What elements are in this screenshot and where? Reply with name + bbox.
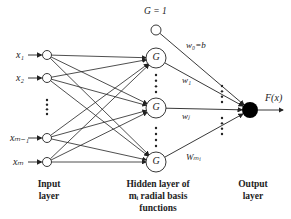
ellipsis-dot-0-0 [46,99,48,101]
hidden-node-label-m: G [146,155,166,166]
hidden-node-label-j: G [146,101,166,112]
edge-hidden-2-output [166,108,242,110]
edge-input-0-hidden-0 [51,55,146,58]
ellipsis-dot-2-0 [155,127,157,129]
bias-node [151,25,161,35]
ellipsis-dot-4-0 [221,117,223,119]
ellipsis-dot-3-2 [221,95,223,97]
edge-input-1-hidden-0 [51,60,146,77]
edge-input-0-hidden-2 [50,58,149,155]
caption-output-layer: Output layer [232,178,274,202]
ellipsis-dot-1-1 [155,79,157,81]
edge-hidden-1-output [165,63,243,106]
ellipsis-dot-3-3 [221,101,223,103]
input-node-0 [43,51,52,60]
input-node-2 [43,134,52,143]
input-node-1 [43,74,52,83]
edge-hidden-3-output [165,114,243,157]
ellipsis-dot-1-0 [155,74,157,76]
hidden-node-label-1: G [146,51,166,62]
caption-input-layer: Input layer [28,178,70,202]
ellipsis-dot-3-1 [221,90,223,92]
bias-label: G = 1 [144,6,167,16]
ellipsis-dot-1-2 [155,85,157,87]
ellipsis-dot-4-2 [221,127,223,129]
ellipsis-dot-4-1 [221,122,223,124]
ellipsis-dot-2-3 [155,145,157,147]
output-node [242,102,258,118]
input-node-3 [43,158,52,167]
input-label-x1: x₁ [16,49,24,60]
weight-label-wj: wⱼ [182,111,190,121]
input-label-x2: x₂ [16,72,24,83]
edge-input-2-hidden-1 [51,111,146,137]
ellipsis-dot-2-1 [155,133,157,135]
ellipsis-dot-0-2 [46,108,48,110]
ellipsis-dot-3-0 [221,85,223,87]
ellipsis-dot-4-3 [221,133,223,135]
weight-label-w1: w₁ [182,75,191,85]
ellipsis-dot-0-1 [46,103,48,105]
ellipsis-dot-1-3 [155,91,157,93]
weight-label-wm: Wₘᵢ [186,152,201,162]
output-label: F(x) [265,92,282,103]
edge-input-2-hidden-2 [51,139,146,160]
ellipsis-dot-2-2 [155,139,157,141]
edge-input-3-hidden-1 [51,112,147,160]
caption-hidden-layer: Hidden layer of mᵢ radial basis function… [122,178,194,214]
input-label-xm: xₘ [13,156,23,167]
weight-label-w0: w₀=b [186,40,206,50]
rbf-network-diagram: x₁ x₂ xₘ₋₁ xₘ G = 1 G G G w₀=b w₁ wⱼ Wₘᵢ… [0,0,291,219]
input-label-xm-1: xₘ₋₁ [10,132,29,143]
ellipsis-dot-0-3 [46,113,48,115]
